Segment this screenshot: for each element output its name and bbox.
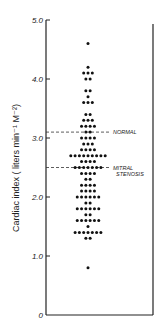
data-point xyxy=(84,213,87,216)
data-point xyxy=(82,166,85,169)
data-point xyxy=(89,207,92,210)
data-point xyxy=(74,231,77,234)
y-axis-label: Cardiac index ( liters min⁻¹ M⁻²) xyxy=(11,104,21,232)
data-point xyxy=(84,207,87,210)
data-point xyxy=(82,101,85,104)
data-point xyxy=(89,78,92,81)
cardiac-index-dot-plot: 01.02.03.04.05.0 NORMALMITRALSTENOSIS Ca… xyxy=(0,0,164,335)
data-point xyxy=(84,196,87,199)
data-point xyxy=(84,78,87,81)
data-point xyxy=(78,166,81,169)
y-tick-label: 3.0 xyxy=(32,134,44,143)
data-point xyxy=(93,190,96,193)
y-tick-label: 1.0 xyxy=(32,252,44,261)
data-point xyxy=(97,219,100,222)
data-point xyxy=(84,190,87,193)
data-point xyxy=(89,184,92,187)
reference-line-label: STENOSIS xyxy=(116,171,144,177)
data-point xyxy=(87,142,90,145)
data-point xyxy=(91,101,94,104)
reference-lines: NORMALMITRALSTENOSIS xyxy=(46,129,144,176)
data-point xyxy=(87,119,90,122)
data-point xyxy=(97,207,100,210)
data-point xyxy=(80,184,83,187)
y-tick-label: 5.0 xyxy=(32,16,44,25)
data-point xyxy=(87,266,90,269)
data-point xyxy=(84,237,87,240)
data-point xyxy=(84,201,87,204)
data-point xyxy=(93,207,96,210)
data-point xyxy=(84,219,87,222)
data-point xyxy=(87,231,90,234)
data-point xyxy=(93,196,96,199)
data-point xyxy=(82,154,85,157)
data-point xyxy=(104,154,107,157)
data-point xyxy=(69,154,72,157)
data-point xyxy=(84,172,87,175)
data-point xyxy=(89,178,92,181)
data-point xyxy=(82,72,85,75)
data-point xyxy=(87,72,90,75)
reference-line-label: NORMAL xyxy=(113,129,137,135)
data-point xyxy=(84,160,87,163)
data-point xyxy=(84,131,87,134)
data-point xyxy=(93,160,96,163)
data-point xyxy=(82,119,85,122)
data-point xyxy=(91,142,94,145)
data-point xyxy=(89,137,92,140)
data-point xyxy=(95,154,98,157)
data-point xyxy=(93,184,96,187)
data-point xyxy=(80,207,83,210)
data-point xyxy=(84,89,87,92)
data-point xyxy=(89,219,92,222)
data-point xyxy=(87,225,90,228)
data-point xyxy=(80,160,83,163)
data-point xyxy=(80,148,83,151)
y-tick-label: 2.0 xyxy=(31,193,44,202)
data-point xyxy=(80,137,83,140)
data-point xyxy=(89,201,92,204)
data-point xyxy=(89,89,92,92)
data-point xyxy=(87,95,90,98)
data-point xyxy=(78,231,81,234)
data-point xyxy=(95,231,98,234)
data-point xyxy=(91,166,94,169)
data-point xyxy=(93,148,96,151)
data-point xyxy=(97,196,100,199)
data-point xyxy=(89,125,92,128)
data-point xyxy=(95,166,98,169)
data-point xyxy=(89,190,92,193)
data-point xyxy=(87,101,90,104)
data-point xyxy=(76,196,79,199)
data-point xyxy=(89,148,92,151)
data-point xyxy=(93,172,96,175)
data-point xyxy=(91,231,94,234)
data-point xyxy=(74,154,77,157)
data-point xyxy=(80,196,83,199)
data-point xyxy=(89,160,92,163)
data-point xyxy=(91,72,94,75)
data-point xyxy=(87,154,90,157)
data-point xyxy=(87,42,90,45)
data-point xyxy=(93,219,96,222)
data-point xyxy=(74,166,77,169)
data-point xyxy=(89,196,92,199)
data-point xyxy=(78,154,81,157)
data-point xyxy=(76,219,79,222)
data-point xyxy=(80,125,83,128)
data-point xyxy=(89,213,92,216)
y-tick-label: 0 xyxy=(39,311,44,320)
y-tick-label: 4.0 xyxy=(32,75,44,84)
data-point xyxy=(84,125,87,128)
data-point xyxy=(91,154,94,157)
data-point xyxy=(89,237,92,240)
data-point xyxy=(89,113,92,116)
data-point xyxy=(80,219,83,222)
data-point xyxy=(87,166,90,169)
data-point xyxy=(89,131,92,134)
data-point xyxy=(99,166,102,169)
data-point xyxy=(82,142,85,145)
data-point xyxy=(84,184,87,187)
data-point xyxy=(91,119,94,122)
data-point xyxy=(89,172,92,175)
